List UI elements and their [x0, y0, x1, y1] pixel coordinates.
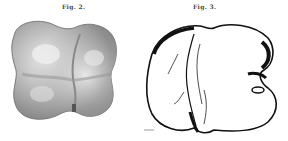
line-drawing-organ-image — [144, 14, 284, 138]
figure-2-illustration — [8, 14, 122, 126]
figure-3-illustration — [144, 14, 284, 138]
shaded-organ-image — [8, 14, 122, 126]
figure-2-caption: Fig. 2. — [62, 3, 85, 10]
figure-3-caption: Fig. 3. — [193, 3, 216, 10]
